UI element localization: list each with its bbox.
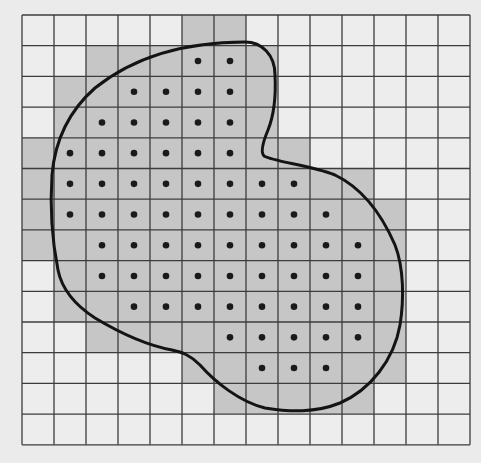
- lattice-dot: [195, 303, 202, 310]
- lattice-dot: [131, 273, 138, 280]
- lattice-dot: [227, 242, 234, 249]
- lattice-dot: [259, 242, 266, 249]
- grid-cell: [406, 107, 438, 138]
- lattice-dot: [195, 181, 202, 188]
- grid-cell-shaded: [22, 230, 54, 261]
- grid-cell: [182, 414, 214, 445]
- grid-cell: [406, 15, 438, 46]
- grid-cell: [150, 383, 182, 414]
- lattice-dot: [131, 242, 138, 249]
- grid-cell: [406, 353, 438, 384]
- grid-cell: [374, 383, 406, 414]
- grid-cell-shaded: [182, 15, 214, 46]
- grid-cell: [406, 76, 438, 107]
- grid-cell-shaded: [22, 138, 54, 169]
- grid-cell: [118, 353, 150, 384]
- lattice-dot: [131, 119, 138, 126]
- lattice-dot: [291, 303, 298, 310]
- lattice-dot: [195, 88, 202, 95]
- grid-cell: [438, 76, 470, 107]
- grid-cell: [406, 169, 438, 200]
- grid-cell: [342, 76, 374, 107]
- lattice-dot: [291, 242, 298, 249]
- lattice-dot: [355, 303, 362, 310]
- grid-cell: [278, 107, 310, 138]
- grid-cell: [22, 261, 54, 292]
- lattice-dot: [323, 365, 330, 372]
- lattice-dot: [67, 211, 74, 218]
- grid-cell: [374, 138, 406, 169]
- grid-cell: [438, 353, 470, 384]
- lattice-dot: [227, 181, 234, 188]
- grid-cell: [54, 46, 86, 77]
- lattice-dot: [195, 273, 202, 280]
- lattice-dot: [323, 303, 330, 310]
- grid-cell-shaded: [342, 353, 374, 384]
- grid-cell-shaded: [86, 291, 118, 322]
- lattice-dot: [323, 273, 330, 280]
- grid-cell: [342, 107, 374, 138]
- grid-cell: [118, 15, 150, 46]
- grid-cell: [406, 291, 438, 322]
- grid-cell: [22, 15, 54, 46]
- grid-cell: [54, 383, 86, 414]
- lattice-dot: [227, 211, 234, 218]
- grid-cell: [214, 414, 246, 445]
- grid-cell: [54, 353, 86, 384]
- grid-cell: [438, 322, 470, 353]
- grid-cell-shaded: [86, 46, 118, 77]
- grid-cell: [374, 169, 406, 200]
- grid-cell-shaded: [22, 169, 54, 200]
- grid-cell: [310, 76, 342, 107]
- grid-cell: [374, 107, 406, 138]
- lattice-dot: [163, 150, 170, 157]
- lattice-dot: [259, 181, 266, 188]
- grid-cell: [374, 414, 406, 445]
- lattice-dot: [131, 88, 138, 95]
- grid-cell: [22, 291, 54, 322]
- lattice-dot: [99, 150, 106, 157]
- lattice-dot: [291, 211, 298, 218]
- grid-cell: [310, 15, 342, 46]
- lattice-dot: [227, 303, 234, 310]
- grid-cell: [406, 414, 438, 445]
- grid-cell: [310, 414, 342, 445]
- grid-cell: [406, 322, 438, 353]
- grid-cell-shaded: [182, 322, 214, 353]
- grid-cell: [342, 15, 374, 46]
- grid-cell: [406, 261, 438, 292]
- lattice-dot: [163, 88, 170, 95]
- grid-cell-shaded: [182, 353, 214, 384]
- lattice-dot: [67, 181, 74, 188]
- grid-region-figure: [0, 0, 481, 463]
- grid-cell: [22, 107, 54, 138]
- lattice-dot: [291, 334, 298, 341]
- grid-cell: [22, 383, 54, 414]
- lattice-dot: [291, 365, 298, 372]
- grid-cell-shaded: [214, 353, 246, 384]
- grid-cell: [22, 414, 54, 445]
- lattice-dot: [227, 273, 234, 280]
- grid-cell: [310, 138, 342, 169]
- lattice-dot: [355, 334, 362, 341]
- grid-cell: [406, 383, 438, 414]
- lattice-dot: [163, 273, 170, 280]
- grid-cell: [406, 199, 438, 230]
- grid-cell: [150, 15, 182, 46]
- grid-cell: [246, 414, 278, 445]
- grid-cell: [342, 46, 374, 77]
- lattice-dot: [355, 242, 362, 249]
- grid-cell-shaded: [22, 199, 54, 230]
- grid-cell-shaded: [54, 107, 86, 138]
- lattice-dot: [67, 150, 74, 157]
- lattice-dot: [227, 88, 234, 95]
- grid-cell: [438, 138, 470, 169]
- grid-cell: [278, 76, 310, 107]
- grid-cell: [342, 138, 374, 169]
- lattice-dot: [195, 58, 202, 65]
- grid-cell: [406, 138, 438, 169]
- lattice-dot: [131, 150, 138, 157]
- lattice-dot: [195, 150, 202, 157]
- lattice-dot: [163, 119, 170, 126]
- lattice-dot: [259, 273, 266, 280]
